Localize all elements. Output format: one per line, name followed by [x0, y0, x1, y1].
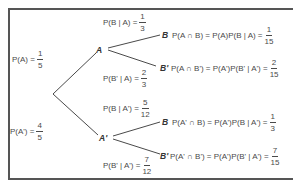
fraction: 712: [142, 155, 151, 176]
label-p-b-prime-given-a-prime: P(B' | A') = 712: [103, 155, 151, 176]
branch-a-to-b-prime: [108, 50, 156, 66]
node-a-prime: A': [99, 133, 107, 143]
fraction: 512: [141, 98, 150, 119]
node-a-b: B: [162, 30, 168, 40]
label-p-a-prime: P(A') = 45: [10, 121, 43, 142]
fraction: 115: [265, 25, 274, 46]
node-a: A: [96, 45, 102, 55]
branch-root-to-a-prime: [53, 94, 98, 135]
fraction: 45: [36, 121, 42, 142]
result-a-and-b: P(A ∩ B) = P(A)P(B | A) = 115: [172, 25, 273, 46]
node-a-prime-b-prime: B': [160, 151, 168, 161]
node-a-b-prime: B': [160, 63, 168, 73]
branch-a-to-b: [108, 35, 160, 48]
result-a-prime-and-b-prime: P(A' ∩ B') = P(A')P(B' | A') = 715: [170, 146, 280, 167]
label-p-b-prime-given-a: P(B' | A) = 23: [103, 68, 147, 89]
fraction: 715: [271, 146, 280, 167]
fraction: 23: [141, 68, 147, 89]
label-p-b-given-a: P(B | A) = 13: [103, 12, 146, 33]
result-a-and-b-prime: P(A ∩ B') = P(A')P(B' | A') = 215: [171, 58, 279, 79]
branch-root-to-a: [53, 53, 96, 94]
fraction: 15: [37, 49, 43, 70]
branch-a-prime-to-b: [113, 122, 160, 136]
node-a-prime-b: B: [162, 117, 168, 127]
branch-a-prime-to-b-prime: [113, 139, 160, 154]
fraction: 215: [270, 58, 279, 79]
label-p-b-given-a-prime: P(B | A') = 512: [103, 98, 150, 119]
fraction: 13: [139, 12, 145, 33]
result-a-prime-and-b: P(A' ∩ B) = P(A')P(B | A') = 13: [172, 112, 276, 133]
label-p-a: P(A) = 15: [12, 49, 43, 70]
fraction: 13: [270, 112, 276, 133]
